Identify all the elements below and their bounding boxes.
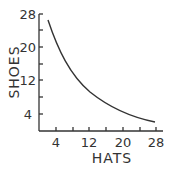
curve-line [48,20,155,122]
x-tick-20: 20 [115,135,132,150]
x-axis-title: HATS [92,150,132,166]
y-tick-28: 28 [19,7,36,22]
chart: 28 20 12 4 SHOES 4 12 20 28 HATS [0,0,171,172]
y-tick-4: 4 [24,107,32,122]
x-tick-28: 28 [148,135,165,150]
y-axis: 28 20 12 4 SHOES [6,7,43,131]
y-axis-title: SHOES [6,45,22,98]
x-tick-12: 12 [81,135,98,150]
x-axis: 4 12 20 28 HATS [39,127,164,166]
x-tick-4: 4 [52,135,60,150]
